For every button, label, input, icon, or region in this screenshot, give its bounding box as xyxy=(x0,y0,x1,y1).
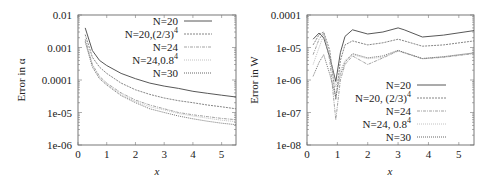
x-tick: 3 xyxy=(395,148,401,160)
x-tick: 1 xyxy=(104,148,110,160)
y-tick-labels: 0.0001 1e-05 1e-06 1e-07 1e-08 xyxy=(271,9,302,151)
y-tick: 1e-08 xyxy=(276,139,302,151)
legend-label: N=20, (2/3)4 xyxy=(355,90,411,105)
y-tick: 0.001 xyxy=(47,42,72,54)
x-tick: 3 xyxy=(161,148,167,160)
y-tick: 1e-05 xyxy=(276,42,302,54)
series-line xyxy=(313,28,474,82)
x-tick: 0 xyxy=(304,148,310,160)
y-axis-label: Error in W xyxy=(248,56,260,104)
x-axis-label: x xyxy=(154,165,160,177)
y-tick: 0.0001 xyxy=(271,9,301,21)
figure: 0.01 0.001 0.0001 1e-05 1e-06 0 1 2 3 4 … xyxy=(0,0,487,184)
x-tick: 5 xyxy=(219,148,225,160)
y-tick: 1e-07 xyxy=(276,107,302,119)
legend-label: N=30 xyxy=(386,131,412,143)
x-tick: 0 xyxy=(75,148,81,160)
x-tick: 2 xyxy=(365,148,371,160)
legend: N=20 N=20,(2/3)4 N=24 N=24,0.84 N=30 xyxy=(125,15,212,79)
legend-label: N=24,0.84 xyxy=(132,52,178,66)
x-tick: 2 xyxy=(133,148,139,160)
x-tick: 1 xyxy=(335,148,341,160)
legend-label: N=24, 0.84 xyxy=(363,116,411,130)
y-tick: 1e-06 xyxy=(276,74,302,86)
legend-label: N=30 xyxy=(153,67,179,79)
x-tick-labels: 0 1 2 3 4 5 xyxy=(75,148,225,160)
y-tick: 1e-06 xyxy=(47,139,73,151)
legend: N=20 N=20, (2/3)4 N=24 N=24, 0.84 N=30 xyxy=(355,79,446,143)
y-axis-label: Error in α xyxy=(15,58,27,101)
y-tick-labels: 0.01 0.001 0.0001 1e-05 1e-06 xyxy=(42,9,73,151)
x-tick-labels: 0 1 2 3 4 5 xyxy=(304,148,462,160)
x-tick: 5 xyxy=(456,148,462,160)
x-axis-label: x xyxy=(387,165,393,177)
y-tick: 0.01 xyxy=(53,9,72,21)
y-tick: 1e-05 xyxy=(47,107,73,119)
x-tick: 4 xyxy=(426,148,432,160)
right-plot: 0.0001 1e-05 1e-06 1e-07 1e-08 0 1 2 3 4… xyxy=(248,9,474,177)
left-plot: 0.01 0.001 0.0001 1e-05 1e-06 0 1 2 3 4 … xyxy=(15,9,236,177)
legend-label: N=20,(2/3)4 xyxy=(125,26,178,41)
y-tick: 0.0001 xyxy=(42,74,72,86)
x-tick: 4 xyxy=(190,148,196,160)
